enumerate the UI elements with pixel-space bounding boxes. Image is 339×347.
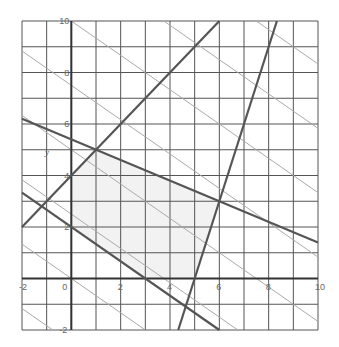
- y-axis-label: y: [44, 147, 49, 157]
- x-tick-label: 4: [167, 282, 172, 292]
- x-tick-label: 6: [216, 282, 221, 292]
- x-tick-label: 2: [118, 282, 123, 292]
- y-tick-label: 6: [64, 119, 69, 129]
- y-tick-label: -2: [59, 325, 67, 335]
- x-tick-label: -2: [19, 282, 27, 292]
- x-tick-label: 8: [266, 282, 271, 292]
- y-tick-label: 2: [64, 222, 69, 232]
- x-tick-label: 0: [62, 282, 67, 292]
- level-line: [22, 309, 53, 330]
- x-tick-label: 10: [315, 282, 325, 292]
- y-tick-label: 8: [64, 68, 69, 78]
- level-line: [164, 21, 318, 128]
- y-tick-label: 4: [64, 171, 69, 181]
- y-tick-label: 10: [59, 16, 69, 26]
- chart: -20246810-2246810 y: [0, 0, 339, 347]
